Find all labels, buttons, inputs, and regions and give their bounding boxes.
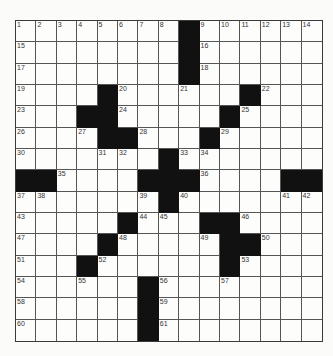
grid-cell[interactable] (36, 298, 56, 319)
grid-cell[interactable] (57, 234, 77, 255)
grid-cell[interactable] (57, 85, 77, 106)
grid-cell[interactable] (159, 106, 179, 127)
grid-cell[interactable]: 8 (159, 21, 179, 42)
grid-cell[interactable] (302, 320, 322, 341)
grid-cell[interactable] (77, 170, 97, 191)
grid-cell[interactable]: 20 (118, 85, 138, 106)
grid-cell[interactable] (261, 42, 281, 63)
grid-cell[interactable] (240, 298, 260, 319)
grid-cell[interactable] (261, 106, 281, 127)
grid-cell[interactable]: 44 (138, 213, 158, 234)
grid-cell[interactable] (302, 213, 322, 234)
grid-cell[interactable] (118, 256, 138, 277)
grid-cell[interactable] (281, 277, 301, 298)
grid-cell[interactable] (138, 149, 158, 170)
grid-cell[interactable] (200, 277, 220, 298)
grid-cell[interactable] (302, 128, 322, 149)
grid-cell[interactable] (281, 320, 301, 341)
grid-cell[interactable]: 46 (240, 213, 260, 234)
grid-cell[interactable]: 41 (281, 192, 301, 213)
grid-cell[interactable] (261, 149, 281, 170)
grid-cell[interactable] (240, 149, 260, 170)
grid-cell[interactable] (302, 64, 322, 85)
grid-cell[interactable] (220, 149, 240, 170)
grid-cell[interactable] (302, 149, 322, 170)
grid-cell[interactable]: 15 (16, 42, 36, 63)
grid-cell[interactable]: 32 (118, 149, 138, 170)
grid-cell[interactable]: 5 (98, 21, 118, 42)
grid-cell[interactable] (57, 149, 77, 170)
grid-cell[interactable]: 36 (200, 170, 220, 191)
grid-cell[interactable] (77, 234, 97, 255)
grid-cell[interactable]: 27 (77, 128, 97, 149)
grid-cell[interactable]: 38 (36, 192, 56, 213)
grid-cell[interactable]: 4 (77, 21, 97, 42)
grid-cell[interactable]: 57 (220, 277, 240, 298)
grid-cell[interactable]: 19 (16, 85, 36, 106)
grid-cell[interactable] (98, 192, 118, 213)
grid-cell[interactable] (118, 42, 138, 63)
grid-cell[interactable] (281, 149, 301, 170)
grid-cell[interactable] (36, 320, 56, 341)
grid-cell[interactable] (281, 106, 301, 127)
grid-cell[interactable] (57, 256, 77, 277)
grid-cell[interactable]: 1 (16, 21, 36, 42)
grid-cell[interactable] (200, 298, 220, 319)
grid-cell[interactable] (98, 277, 118, 298)
grid-cell[interactable]: 34 (200, 149, 220, 170)
grid-cell[interactable] (98, 213, 118, 234)
grid-cell[interactable] (159, 256, 179, 277)
grid-cell[interactable] (138, 64, 158, 85)
grid-cell[interactable]: 59 (159, 298, 179, 319)
grid-cell[interactable] (138, 256, 158, 277)
grid-cell[interactable]: 55 (77, 277, 97, 298)
grid-cell[interactable]: 48 (118, 234, 138, 255)
grid-cell[interactable]: 9 (200, 21, 220, 42)
grid-cell[interactable] (159, 234, 179, 255)
grid-cell[interactable] (281, 128, 301, 149)
grid-cell[interactable] (261, 192, 281, 213)
grid-cell[interactable] (200, 106, 220, 127)
grid-cell[interactable] (77, 192, 97, 213)
grid-cell[interactable] (77, 298, 97, 319)
grid-cell[interactable] (220, 85, 240, 106)
grid-cell[interactable] (77, 64, 97, 85)
grid-cell[interactable]: 47 (16, 234, 36, 255)
grid-cell[interactable] (220, 64, 240, 85)
grid-cell[interactable]: 51 (16, 256, 36, 277)
grid-cell[interactable] (77, 42, 97, 63)
grid-cell[interactable] (281, 234, 301, 255)
grid-cell[interactable] (159, 128, 179, 149)
grid-cell[interactable] (261, 277, 281, 298)
grid-cell[interactable] (302, 85, 322, 106)
grid-cell[interactable] (261, 170, 281, 191)
grid-cell[interactable]: 53 (240, 256, 260, 277)
grid-cell[interactable]: 61 (159, 320, 179, 341)
grid-cell[interactable] (179, 256, 199, 277)
grid-cell[interactable] (179, 234, 199, 255)
grid-cell[interactable] (302, 42, 322, 63)
grid-cell[interactable] (240, 42, 260, 63)
grid-cell[interactable] (57, 213, 77, 234)
grid-cell[interactable] (220, 320, 240, 341)
grid-cell[interactable] (240, 128, 260, 149)
grid-cell[interactable] (138, 85, 158, 106)
grid-cell[interactable] (281, 256, 301, 277)
grid-cell[interactable] (36, 106, 56, 127)
grid-cell[interactable] (159, 42, 179, 63)
grid-cell[interactable]: 43 (16, 213, 36, 234)
grid-cell[interactable] (57, 192, 77, 213)
grid-cell[interactable] (220, 170, 240, 191)
grid-cell[interactable] (281, 298, 301, 319)
grid-cell[interactable] (57, 64, 77, 85)
grid-cell[interactable]: 24 (118, 106, 138, 127)
grid-cell[interactable]: 60 (16, 320, 36, 341)
grid-cell[interactable] (138, 42, 158, 63)
grid-cell[interactable] (220, 298, 240, 319)
grid-cell[interactable] (57, 298, 77, 319)
grid-cell[interactable] (36, 234, 56, 255)
grid-cell[interactable] (281, 64, 301, 85)
grid-cell[interactable]: 35 (57, 170, 77, 191)
grid-cell[interactable] (57, 128, 77, 149)
grid-cell[interactable] (261, 64, 281, 85)
